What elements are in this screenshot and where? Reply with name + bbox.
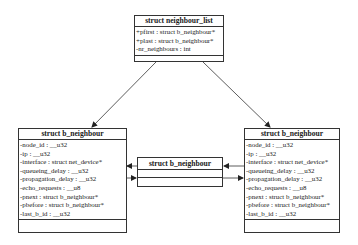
attribute: -echo_requests : __u8	[20, 184, 126, 193]
attribute: -echo_requests : __u8	[246, 184, 339, 193]
arrow-plast	[203, 62, 270, 127]
operations-section	[19, 220, 126, 226]
attribute: +plast : struct b_neighbour*	[136, 37, 223, 46]
attribute: -interface : struct net_device*	[246, 158, 339, 167]
attribute: -propagation_delay : __u32	[20, 175, 126, 184]
arrow-pfirst	[92, 62, 156, 127]
attribute: +pfirst : struct b_neighbour*	[136, 28, 223, 37]
operations-section	[245, 220, 339, 226]
attribute: -ip : __u32	[246, 150, 339, 159]
attribute: -node_id : __u32	[246, 141, 339, 150]
operations-section	[135, 56, 223, 62]
attribute-list	[138, 170, 222, 178]
attribute: -pbefore : struct b_neighbour*	[20, 201, 126, 210]
class-title: struct b_neighbour	[19, 129, 126, 140]
attribute: -pnext : struct b_neighbour*	[20, 193, 126, 202]
attribute-list: -node_id : __u32 -ip : __u32 -interface …	[245, 140, 339, 220]
class-title: struct b_neighbour	[138, 158, 222, 170]
attribute: -queueing_delay : __u32	[20, 167, 126, 176]
attribute: -queueing_delay : __u32	[246, 167, 339, 176]
attribute-list: +pfirst : struct b_neighbour* +plast : s…	[135, 27, 223, 56]
attribute: -propagation_delay : __u32	[246, 175, 339, 184]
class-b-neighbour-right[interactable]: struct b_neighbour -node_id : __u32 -ip …	[244, 128, 340, 233]
attribute: -interface : struct net_device*	[20, 158, 126, 167]
attribute-list: -node_id : __u32 -ip : __u32 -interface …	[19, 140, 126, 220]
class-title: struct b_neighbour	[245, 129, 339, 140]
attribute: -pnext : struct b_neighbour*	[246, 193, 339, 202]
attribute: -last_b_id : __u32	[20, 210, 126, 219]
attribute: -pbefore : struct b_neighbour*	[246, 201, 339, 210]
class-b-neighbour-left[interactable]: struct b_neighbour -node_id : __u32 -ip …	[18, 128, 127, 233]
attribute: -ip : __u32	[20, 150, 126, 159]
class-neighbour-list[interactable]: struct neighbour_list +pfirst : struct b…	[134, 15, 224, 62]
operations-section	[138, 178, 222, 184]
class-b-neighbour-middle[interactable]: struct b_neighbour	[137, 157, 223, 187]
attribute: -node_id : __u32	[20, 141, 126, 150]
attribute: -last_b_id : __u32	[246, 210, 339, 219]
class-title: struct neighbour_list	[135, 16, 223, 27]
attribute: -nr_neighbours : int	[136, 45, 223, 54]
